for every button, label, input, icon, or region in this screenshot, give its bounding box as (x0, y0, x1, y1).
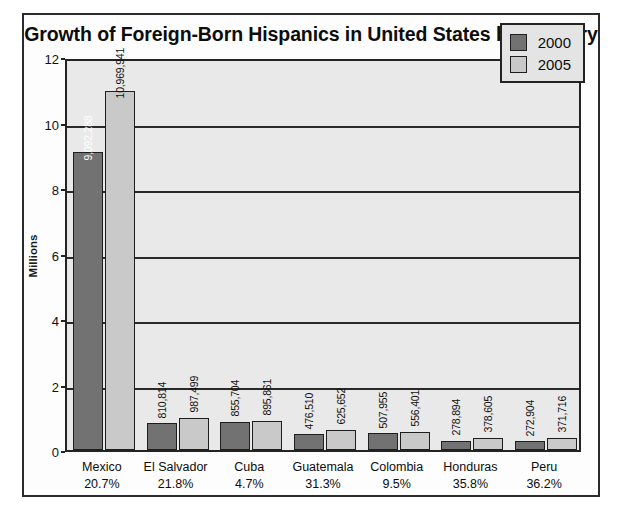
gridline (67, 322, 579, 324)
legend-item-2005[interactable]: 2005 (510, 53, 571, 75)
category-name: Peru (531, 460, 557, 474)
bar-cuba-2000[interactable] (220, 422, 250, 450)
legend-swatch-2000 (510, 34, 527, 51)
bar-peru-2005[interactable] (547, 438, 577, 450)
bar-colombia-2005[interactable] (400, 432, 430, 450)
bar-el-salvador-2005[interactable] (179, 418, 209, 450)
bar-value-label: 625,652 (336, 388, 347, 425)
bar-value-label: 9,092,288 (82, 115, 93, 160)
bar-honduras-2005[interactable] (473, 438, 503, 450)
bar-value-label: 987,499 (188, 376, 199, 413)
category-name: Cuba (234, 460, 264, 474)
bar-cuba-2005[interactable] (252, 421, 282, 450)
chart-frame: Growth of Foreign-Born Hispanics in Unit… (22, 13, 600, 497)
bar-colombia-2000[interactable] (368, 433, 398, 450)
category-name: Colombia (370, 460, 423, 474)
legend-swatch-2005 (510, 56, 527, 73)
bar-value-label: 278,894 (451, 399, 462, 436)
chart-page: Growth of Foreign-Born Hispanics in Unit… (0, 0, 619, 520)
gridline (67, 257, 579, 259)
gridline (67, 126, 579, 128)
category-name: El Salvador (144, 460, 208, 474)
bar-value-label: 378,605 (483, 396, 494, 433)
bar-guatemala-2005[interactable] (326, 430, 356, 450)
category-percent: 36.2% (507, 476, 581, 493)
bar-peru-2000[interactable] (515, 441, 545, 450)
category-percent: 9.5% (360, 476, 434, 493)
bar-honduras-2000[interactable] (441, 441, 471, 450)
y-axis: Millions 024681012 (24, 59, 65, 452)
y-axis-title: Millions (27, 211, 39, 301)
y-tick-label: 10 (45, 117, 59, 132)
bar-value-label: 895,861 (262, 379, 273, 416)
category-name: Mexico (82, 460, 122, 474)
category-percent: 21.8% (139, 476, 213, 493)
y-tick-label: 6 (52, 248, 59, 263)
x-axis-category-honduras: Honduras35.8% (434, 459, 508, 493)
bar-value-label: 10,969,941 (114, 48, 125, 99)
x-axis-category-cuba: Cuba4.7% (212, 459, 286, 493)
gridline (67, 388, 579, 390)
bar-guatemala-2000[interactable] (294, 434, 324, 450)
bar-value-label: 371,716 (557, 396, 568, 433)
bar-value-label: 476,510 (304, 393, 315, 430)
gridline (67, 191, 579, 193)
x-axis-category-el-salvador: El Salvador21.8% (139, 459, 213, 493)
legend-label-2000: 2000 (538, 34, 571, 51)
x-axis-category-colombia: Colombia9.5% (360, 459, 434, 493)
category-name: Honduras (443, 460, 497, 474)
legend-label-2005: 2005 (538, 56, 571, 73)
y-tick-label: 2 (52, 379, 59, 394)
category-percent: 35.8% (434, 476, 508, 493)
chart-legend: 2000 2005 (500, 23, 585, 83)
bar-value-label: 556,401 (409, 390, 420, 427)
bar-mexico-2005[interactable] (105, 91, 135, 450)
bar-value-label: 507,955 (377, 392, 388, 429)
y-tick-label: 4 (52, 314, 59, 329)
category-name: Guatemala (292, 460, 353, 474)
legend-item-2000[interactable]: 2000 (510, 31, 571, 53)
category-percent: 20.7% (65, 476, 139, 493)
x-axis-category-guatemala: Guatemala31.3% (286, 459, 360, 493)
bar-mexico-2000[interactable] (73, 152, 103, 450)
bar-value-label: 810,814 (156, 382, 167, 419)
x-axis: Mexico20.7%El Salvador21.8%Cuba4.7%Guate… (65, 455, 581, 499)
bar-value-label: 272,904 (525, 400, 536, 437)
y-tick-label: 0 (52, 445, 59, 460)
bar-value-label: 855,704 (230, 380, 241, 417)
plot-area: 9,092,28810,969,941810,814987,499855,704… (65, 59, 581, 452)
y-tick-label: 8 (52, 183, 59, 198)
category-percent: 31.3% (286, 476, 360, 493)
category-percent: 4.7% (212, 476, 286, 493)
plot-area-wrapper: 9,092,28810,969,941810,814987,499855,704… (65, 59, 581, 452)
bar-el-salvador-2000[interactable] (147, 423, 177, 450)
x-axis-category-mexico: Mexico20.7% (65, 459, 139, 493)
x-axis-category-peru: Peru36.2% (507, 459, 581, 493)
y-tick-label: 12 (45, 52, 59, 67)
